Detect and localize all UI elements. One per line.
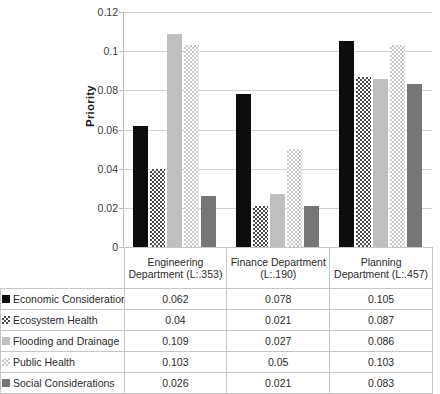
- legend-label: Social Considerations: [13, 377, 115, 389]
- y-tick-label: 0.12: [74, 7, 118, 17]
- plot-area: [123, 12, 432, 247]
- bar: [407, 84, 423, 247]
- legend-label: Flooding and Drainage: [13, 335, 119, 347]
- legend-label: Public Health: [13, 356, 75, 368]
- y-tick-label: 0.02: [74, 203, 118, 213]
- table-value-cell: 0.021: [227, 310, 330, 331]
- table-value-cell: 0.021: [227, 373, 330, 394]
- table-value-cell: 0.05: [227, 352, 330, 373]
- bar: [253, 206, 269, 247]
- bar: [390, 45, 406, 247]
- table-header-row: Engineering Department (L:.353)Finance D…: [1, 248, 433, 289]
- table-column-header: Planning Department (L:.457): [330, 248, 433, 289]
- bar: [236, 94, 252, 247]
- y-tick-label: 0.06: [74, 125, 118, 135]
- data-table: Engineering Department (L:.353)Finance D…: [0, 247, 433, 394]
- bar: [373, 79, 389, 247]
- bar: [184, 45, 200, 247]
- y-tick-label: 0.1: [74, 46, 118, 56]
- bar: [339, 41, 355, 247]
- table-row: Ecosystem Health0.040.0210.087: [1, 310, 433, 331]
- table-corner-cell: [1, 248, 125, 289]
- table-column-header: Finance Department (L:.190): [227, 248, 330, 289]
- legend-swatch-icon: [2, 295, 10, 303]
- table-value-cell: 0.078: [227, 289, 330, 310]
- table-value-cell: 0.062: [124, 289, 227, 310]
- legend-swatch-icon: [2, 316, 10, 324]
- bar: [150, 169, 166, 247]
- table-value-cell: 0.027: [227, 331, 330, 352]
- bar: [167, 34, 183, 247]
- legend-label: Economic Considerations: [13, 293, 124, 305]
- table-column-header: Engineering Department (L:.353): [124, 248, 227, 289]
- data-table-body: Engineering Department (L:.353)Finance D…: [1, 248, 433, 394]
- table-value-cell: 0.105: [330, 289, 433, 310]
- plot-region: Priority 0.120.10.080.060.040.020: [0, 0, 440, 252]
- table-row: Public Health0.1030.050.103: [1, 352, 433, 373]
- table-value-cell: 0.087: [330, 310, 433, 331]
- table-value-cell: 0.103: [124, 352, 227, 373]
- legend-entry: Economic Considerations: [1, 289, 125, 310]
- legend-swatch-icon: [2, 358, 10, 366]
- y-tick-label: 0.08: [74, 85, 118, 95]
- legend-swatch-icon: [2, 337, 10, 345]
- table-row: Economic Considerations0.0620.0780.105: [1, 289, 433, 310]
- table-value-cell: 0.026: [124, 373, 227, 394]
- y-axis-tick-labels: 0.120.10.080.060.040.020: [74, 0, 118, 252]
- bar: [304, 206, 320, 247]
- legend-entry: Ecosystem Health: [1, 310, 125, 331]
- bar: [356, 77, 372, 247]
- table-value-cell: 0.04: [124, 310, 227, 331]
- table-value-cell: 0.086: [330, 331, 433, 352]
- legend-swatch-icon: [2, 379, 10, 387]
- table-value-cell: 0.103: [330, 352, 433, 373]
- legend-entry: Public Health: [1, 352, 125, 373]
- legend-label: Ecosystem Health: [13, 314, 98, 326]
- bar: [270, 194, 286, 247]
- gridline: [123, 12, 432, 13]
- table-row: Social Considerations0.0260.0210.083: [1, 373, 433, 394]
- legend-entry: Flooding and Drainage: [1, 331, 125, 352]
- bar: [201, 196, 217, 247]
- bar: [133, 126, 149, 247]
- table-row: Flooding and Drainage0.1090.0270.086: [1, 331, 433, 352]
- legend-entry: Social Considerations: [1, 373, 125, 394]
- table-value-cell: 0.109: [124, 331, 227, 352]
- bar: [287, 149, 303, 247]
- y-tick-label: 0.04: [74, 164, 118, 174]
- table-value-cell: 0.083: [330, 373, 433, 394]
